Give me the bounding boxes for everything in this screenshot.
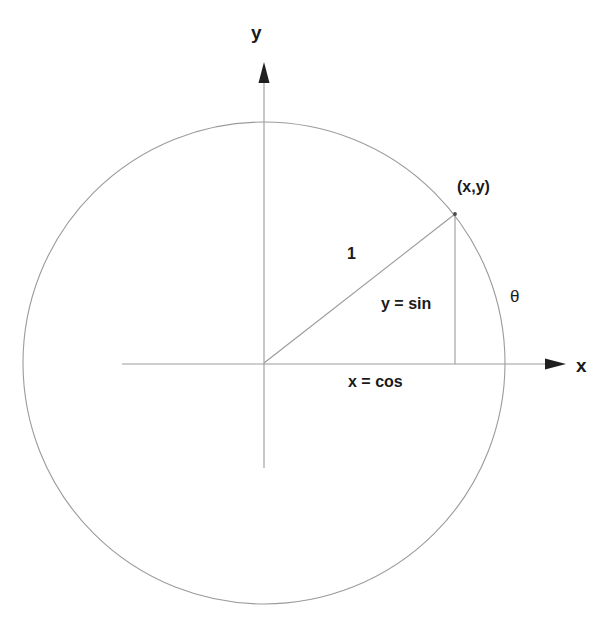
y-axis-label: y: [251, 23, 262, 42]
diagram-canvas: [0, 0, 602, 623]
point-coordinate-label: (x,y): [457, 179, 490, 195]
radius-length-label: 1: [347, 246, 356, 262]
x-axis-arrowhead-icon: [545, 359, 566, 370]
y-axis-arrowhead-icon: [259, 62, 270, 83]
point-marker: [453, 212, 457, 216]
radius-segment: [264, 214, 455, 363]
unit-circle-diagram: y x (x,y) 1 θ y = sin x = cos: [0, 0, 602, 623]
x-axis-label: x: [576, 356, 587, 375]
angle-theta-label: θ: [510, 288, 519, 305]
sine-leg-label: y = sin: [381, 296, 431, 312]
cosine-leg-label: x = cos: [348, 374, 403, 390]
